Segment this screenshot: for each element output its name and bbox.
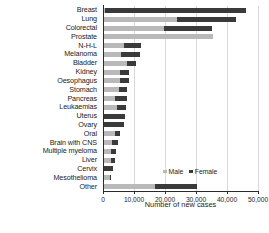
bar-segment-male xyxy=(104,87,119,92)
bar-brain-with-cns xyxy=(104,140,259,145)
bar-segment-male xyxy=(104,26,164,31)
bar-segment-male xyxy=(104,52,121,57)
bar-segment-male xyxy=(104,17,177,22)
bar-segment-male xyxy=(104,78,120,83)
x-axis-tick xyxy=(227,191,228,194)
category-label: Kidney xyxy=(76,68,97,76)
legend-swatch-female-icon xyxy=(189,170,193,174)
bar-mesothelioma xyxy=(104,175,259,180)
bar-ovary xyxy=(104,122,259,127)
category-label: Colorectal xyxy=(66,24,97,32)
bar-uterus xyxy=(104,114,259,119)
bar-segment-female xyxy=(121,52,140,57)
bar-n-h-l xyxy=(104,43,259,48)
category-axis-labels: BreastLungColorectalProstateN-H-LMelanom… xyxy=(0,6,100,191)
x-axis-tick xyxy=(134,191,135,194)
bar-pancreas xyxy=(104,96,259,101)
x-axis-line xyxy=(103,191,258,192)
bar-segment-female xyxy=(115,131,120,136)
bar-segment-female xyxy=(155,184,197,189)
bar-breast xyxy=(104,8,259,13)
bar-segment-male xyxy=(104,105,117,110)
bar-segment-male xyxy=(104,149,111,154)
bar-kidney xyxy=(104,70,259,75)
bar-segment-female xyxy=(120,78,128,83)
category-label: Breast xyxy=(77,6,97,14)
bar-segment-female xyxy=(115,96,127,101)
category-label: Cervix xyxy=(77,165,97,173)
bar-segment-male xyxy=(104,131,115,136)
x-axis-tick xyxy=(258,191,259,194)
category-label: Other xyxy=(80,183,97,191)
category-label: Ovary xyxy=(78,121,97,129)
bar-leukaemias xyxy=(104,105,259,110)
x-axis-tick xyxy=(103,191,104,194)
x-axis-tick xyxy=(196,191,197,194)
bar-segment-female xyxy=(110,175,111,180)
category-label: Uterus xyxy=(76,112,97,120)
bar-segment-female xyxy=(119,87,127,92)
bar-segment-male xyxy=(104,43,124,48)
legend-label-female: Female xyxy=(195,168,218,175)
category-label: Mesothelioma xyxy=(53,174,97,182)
bar-segment-male xyxy=(104,61,127,66)
legend: Male Female xyxy=(163,168,217,175)
category-label: Brain with CNS xyxy=(50,139,97,147)
bar-segment-female xyxy=(112,140,118,145)
category-label: Bladder xyxy=(73,59,97,67)
category-label: Oesophagus xyxy=(57,77,97,85)
plot-area: 010,00020,00030,00040,00050,000 xyxy=(103,6,258,191)
category-label: Oral xyxy=(84,130,97,138)
bar-oesophagus xyxy=(104,78,259,83)
bar-lung xyxy=(104,17,259,22)
bar-stomach xyxy=(104,87,259,92)
bar-segment-female xyxy=(104,114,125,119)
bar-segment-female xyxy=(117,105,126,110)
legend-label-male: Male xyxy=(169,168,184,175)
category-label: Liver xyxy=(82,156,97,164)
category-label: Leukaemias xyxy=(59,103,97,111)
category-label: Stomach xyxy=(69,86,97,94)
category-label: N-H-L xyxy=(78,42,97,50)
bar-segment-male xyxy=(104,96,115,101)
cancer-incidence-bar-chart: BreastLungColorectalProstateN-H-LMelanom… xyxy=(0,0,269,233)
bar-segment-female xyxy=(105,8,246,13)
bar-bladder xyxy=(104,61,259,66)
bar-segment-female xyxy=(177,17,236,22)
bar-colorectal xyxy=(104,26,259,31)
bar-liver xyxy=(104,158,259,163)
bar-prostate xyxy=(104,34,259,39)
bar-melanoma xyxy=(104,52,259,57)
bar-segment-female xyxy=(111,158,114,163)
legend-item-female: Female xyxy=(189,168,217,175)
category-label: Prostate xyxy=(71,33,97,41)
bar-segment-male xyxy=(104,34,213,39)
x-axis-tick xyxy=(165,191,166,194)
bar-segment-female xyxy=(120,70,129,75)
category-label: Multiple myeloma xyxy=(43,147,97,155)
bar-segment-female xyxy=(104,122,124,127)
bar-oral xyxy=(104,131,259,136)
category-label: Pancreas xyxy=(67,95,97,103)
bar-segment-male xyxy=(104,70,120,75)
bar-segment-female xyxy=(164,26,212,31)
bar-segment-male xyxy=(104,140,112,145)
bar-segment-female xyxy=(127,61,136,66)
bar-segment-female xyxy=(111,149,116,154)
legend-swatch-male-icon xyxy=(163,170,167,174)
bar-segment-male xyxy=(104,158,111,163)
bar-segment-female xyxy=(104,166,113,171)
category-label: Lung xyxy=(81,15,97,23)
bar-other xyxy=(104,184,259,189)
bar-multiple-myeloma xyxy=(104,149,259,154)
bar-segment-male xyxy=(104,184,155,189)
legend-item-male: Male xyxy=(163,168,183,175)
x-axis-title: Number of new cases xyxy=(103,200,258,209)
category-label: Melanoma xyxy=(64,50,97,58)
bar-segment-female xyxy=(124,43,141,48)
